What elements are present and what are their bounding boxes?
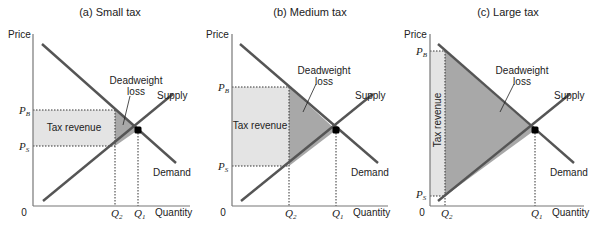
dwl-label-line2: loss — [315, 76, 333, 87]
pb-label: PB — [217, 81, 230, 95]
equilibrium-point — [135, 127, 142, 134]
panel-title: (a) Small tax — [79, 6, 141, 18]
ps-label: PS — [217, 160, 229, 174]
supply-label: Supply — [355, 90, 386, 101]
tax-revenue-label: Tax revenue — [233, 120, 288, 131]
quantity-axis-label: Quantity — [155, 207, 192, 218]
demand-label: Demand — [351, 167, 389, 178]
equilibrium-point — [333, 127, 340, 134]
dwl-label-line1: Deadweight — [298, 65, 351, 76]
tax-revenue-label: Tax revenue — [47, 122, 102, 133]
price-axis-label: Price — [404, 29, 427, 40]
q1-label: Q1 — [134, 207, 145, 221]
origin-label: 0 — [21, 207, 27, 218]
dwl-label-line1: Deadweight — [110, 75, 163, 86]
dwl-label-line2: loss — [513, 76, 531, 87]
quantity-axis-label: Quantity — [353, 207, 390, 218]
pb-label: PB — [18, 104, 31, 118]
equilibrium-point — [532, 127, 539, 134]
pb-label: PB — [415, 45, 428, 59]
demand-label: Demand — [153, 167, 191, 178]
q2-label: Q2 — [441, 207, 453, 221]
dwl-label-line2: loss — [127, 86, 145, 97]
price-axis-label: Price — [8, 29, 31, 40]
panel-large-tax: (c) Large tax Price 0 Quantity Tax reven… — [404, 6, 589, 221]
dwl-label-line1: Deadweight — [496, 65, 549, 76]
demand-label: Demand — [550, 167, 588, 178]
panel-medium-tax: (b) Medium tax Price 0 Quantity Tax reve… — [206, 6, 390, 221]
origin-label: 0 — [419, 207, 425, 218]
tax-deadweight-loss-figure: (a) Small tax Price 0 Quantity Tax reven… — [0, 0, 596, 238]
supply-label: Supply — [554, 90, 585, 101]
quantity-axis-label: Quantity — [552, 207, 589, 218]
panel-title: (b) Medium tax — [273, 6, 347, 18]
price-axis-label: Price — [206, 29, 229, 40]
q2-label: Q2 — [285, 207, 297, 221]
deadweight-loss-area — [289, 87, 336, 166]
supply-label: Supply — [157, 90, 188, 101]
panel-title: (c) Large tax — [477, 6, 539, 18]
tax-revenue-label: Tax revenue — [432, 92, 443, 147]
ps-label: PS — [415, 188, 427, 202]
origin-label: 0 — [220, 207, 226, 218]
ps-label: PS — [18, 140, 30, 154]
q2-label: Q2 — [111, 207, 123, 221]
q1-label: Q1 — [332, 207, 343, 221]
q1-label: Q1 — [531, 207, 542, 221]
panel-small-tax: (a) Small tax Price 0 Quantity Tax reven… — [8, 6, 192, 221]
